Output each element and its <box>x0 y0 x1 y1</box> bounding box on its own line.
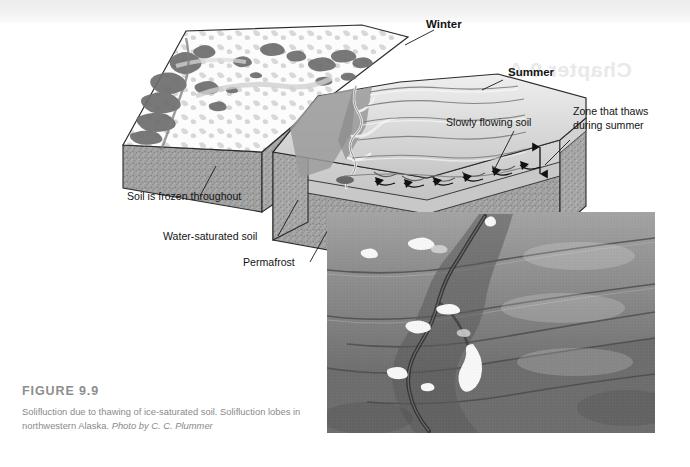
label-summer: Summer <box>508 66 555 78</box>
figure-caption-text: Solifluction due to thawing of ice-satur… <box>22 405 322 432</box>
label-permafrost: Permafrost <box>243 256 295 268</box>
label-soil-is-frozen-throughout: Soil is frozen throughout <box>127 190 241 202</box>
stream-pool <box>336 176 354 184</box>
photo-content <box>327 212 655 433</box>
figure-number-label: FIGURE 9.9 <box>22 384 322 398</box>
label-winter: Winter <box>426 18 462 30</box>
leader-winter <box>405 30 434 45</box>
label-water-saturated-soil: Water-saturated soil <box>163 230 257 242</box>
label-zone-that-thaws-line1: Zone that thaws <box>573 105 648 117</box>
photo-credit: Photo by C. C. Plummer <box>112 420 213 431</box>
label-slowly-flowing-soil: Slowly flowing soil <box>446 116 531 128</box>
figure-page: Chapter 9 A <box>0 0 690 467</box>
photo-film-grain <box>327 212 655 433</box>
figure-caption-block: FIGURE 9.9 Solifluction due to thawing o… <box>22 384 322 432</box>
solifluction-lobes-photo <box>327 212 655 433</box>
label-zone-that-thaws-line2: during summer <box>573 119 644 131</box>
